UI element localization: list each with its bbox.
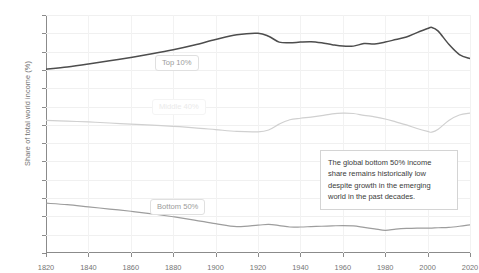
x-tick-mark <box>385 253 386 257</box>
x-tick-label: 2000 <box>408 263 448 272</box>
chart-root: Share of total world income (%) 0%5%10%1… <box>0 0 479 273</box>
y-axis-title: Share of total world income (%) <box>23 29 32 199</box>
x-tick-mark <box>300 253 301 257</box>
plot-area: 0%5%10%15%20%25%30%35%40%45%50%55%60%65%… <box>46 15 470 253</box>
x-tick-mark <box>470 253 471 257</box>
x-tick-mark <box>46 253 47 257</box>
x-tick-label: 1820 <box>26 263 66 272</box>
series-lines <box>46 15 470 253</box>
x-tick-label: 2020 <box>450 263 479 272</box>
x-tick-mark <box>428 253 429 257</box>
x-tick-mark <box>343 253 344 257</box>
series-label-middle-40: Middle 40% <box>152 99 206 115</box>
series-label-bottom-50: Bottom 50% <box>150 199 205 215</box>
x-tick-label: 1920 <box>238 263 278 272</box>
x-tick-label: 1960 <box>323 263 363 272</box>
x-tick-mark <box>131 253 132 257</box>
x-tick-label: 1840 <box>68 263 108 272</box>
x-tick-label: 1880 <box>153 263 193 272</box>
x-tick-label: 1900 <box>196 263 236 272</box>
x-tick-mark <box>216 253 217 257</box>
series-label-top-10: Top 10% <box>155 55 199 71</box>
series-line-top-10 <box>46 27 470 69</box>
x-tick-label: 1940 <box>280 263 320 272</box>
x-tick-mark <box>258 253 259 257</box>
annotation-bottom-50-note: The global bottom 50% income share remai… <box>320 150 458 210</box>
x-tick-label: 1860 <box>111 263 151 272</box>
series-line-middle-40 <box>46 113 470 132</box>
gridline-vertical <box>470 15 471 253</box>
x-tick-mark <box>173 253 174 257</box>
x-tick-mark <box>88 253 89 257</box>
x-tick-label: 1980 <box>365 263 405 272</box>
